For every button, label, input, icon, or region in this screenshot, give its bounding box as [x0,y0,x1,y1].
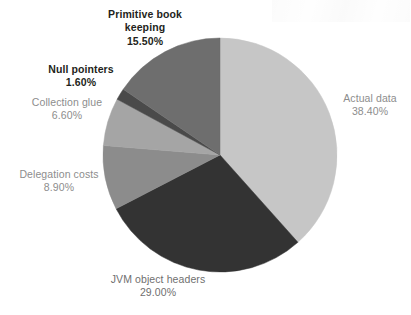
slice-label-null-pointers-name: Null pointers [28,63,134,76]
slice-label-jvm-object-headers-name: JVM object headers [92,273,224,286]
slice-label-jvm-object-headers: JVM object headers 29.00% [92,273,224,300]
pie-chart: Primitive book keeping 15.50% Null point… [0,0,411,315]
slice-label-primitive-book-keeping-line2: keeping [92,21,198,34]
slice-label-actual-data: Actual data 38.40% [330,92,410,119]
slice-label-delegation-costs: Delegation costs 8.90% [4,168,114,195]
pie-chart-canvas [0,0,411,315]
slice-label-primitive-book-keeping: Primitive book keeping 15.50% [92,8,198,48]
slice-label-collection-glue-name: Collection glue [14,96,120,109]
slice-label-null-pointers: Null pointers 1.60% [28,63,134,90]
slice-value-null-pointers: 1.60% [28,76,134,89]
slice-label-primitive-book-keeping-line1: Primitive book [92,8,198,21]
slice-value-primitive-book-keeping: 15.50% [92,35,198,48]
slice-value-delegation-costs: 8.90% [4,181,114,194]
slice-label-actual-data-name: Actual data [330,92,410,105]
slice-value-jvm-object-headers: 29.00% [92,286,224,299]
slice-value-actual-data: 38.40% [330,105,410,118]
pie-slice-group [103,38,337,272]
slice-label-delegation-costs-name: Delegation costs [4,168,114,181]
slice-label-collection-glue: Collection glue 6.60% [14,96,120,123]
slice-value-collection-glue: 6.60% [14,109,120,122]
